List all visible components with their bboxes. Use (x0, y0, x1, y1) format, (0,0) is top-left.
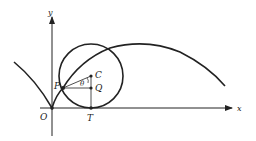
label-O: O (40, 112, 48, 122)
cycloid-curve (14, 44, 225, 108)
point-P (61, 86, 65, 90)
x-axis-label: x (237, 104, 242, 113)
label-C: C (95, 70, 102, 80)
label-Q: Q (95, 83, 103, 93)
cycloid-diagram: y x O P C Q T θ (0, 0, 256, 141)
point-T (89, 106, 93, 110)
point-Q (89, 86, 92, 89)
label-P: P (53, 81, 61, 91)
point-O (50, 106, 54, 110)
label-T: T (87, 113, 94, 123)
label-theta: θ (80, 80, 85, 88)
point-C (89, 74, 92, 77)
angle-arc (87, 78, 88, 83)
y-axis-label: y (47, 8, 53, 17)
